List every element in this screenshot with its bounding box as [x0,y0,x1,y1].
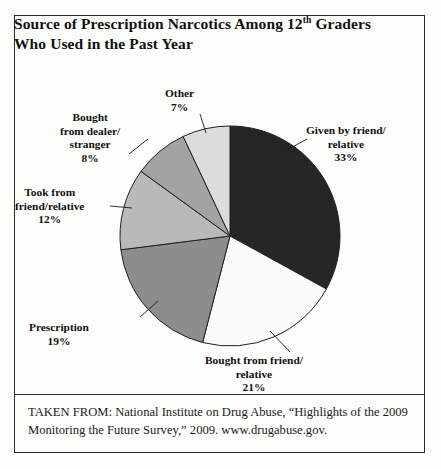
figure-page: Source of Prescription Narcotics Among 1… [0,0,441,469]
slice-label-given-by-friend-relative: Given by friend/ relative 33% [306,124,386,165]
footer-divider [15,394,424,395]
pie-chart: Given by friend/ relative 33% Bought fro… [0,55,408,390]
title-text-part2: Graders [311,15,371,32]
slice-label-bought-from-dealer-stranger: Bought from dealer/ stranger 8% [60,111,120,165]
label-line-2: relative [328,138,364,150]
label-line-2: friend/relative [15,200,84,212]
label-percent: 19% [29,335,89,349]
leader-line-dealer [129,139,148,154]
label-line-1: Other [165,87,194,99]
title-text-part1: Source of Prescription Narcotics Among 1… [14,15,303,32]
slice-label-other: Other 7% [165,87,194,114]
page-title: Source of Prescription Narcotics Among 1… [14,14,394,54]
label-line-1: Took from [24,186,75,198]
label-percent: 7% [165,101,194,115]
label-percent: 12% [15,213,84,227]
slice-label-bought-from-friend-relative: Bought from friend/ relative 21% [205,354,303,395]
label-line-1: Bought [72,111,107,123]
slice-label-prescription: Prescription 19% [29,321,89,348]
label-line-1: Prescription [29,321,89,333]
label-line-2: from dealer/ [60,125,120,137]
label-line-2: relative [236,368,272,380]
slice-label-took-from-friend-relative: Took from friend/relative 12% [15,186,84,227]
label-percent: 21% [205,381,303,395]
label-percent: 33% [306,151,386,165]
title-line-2: Who Used in the Past Year [14,35,193,52]
label-line-3: stranger [70,138,111,150]
label-line-1: Given by friend/ [306,124,386,136]
source-note: TAKEN FROM: National Institute on Drug A… [28,404,418,439]
label-percent: 8% [60,152,120,166]
label-line-1: Bought from friend/ [205,354,303,366]
